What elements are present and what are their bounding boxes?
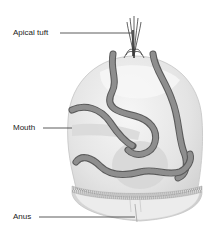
apical-tuft-label: Apical tuft <box>13 28 48 38</box>
anus-label: Anus <box>13 212 31 222</box>
mouth-label: Mouth <box>13 123 35 133</box>
trochophore-diagram: Apical tuft Mouth Anus <box>0 0 213 233</box>
apical-tuft <box>124 16 144 58</box>
